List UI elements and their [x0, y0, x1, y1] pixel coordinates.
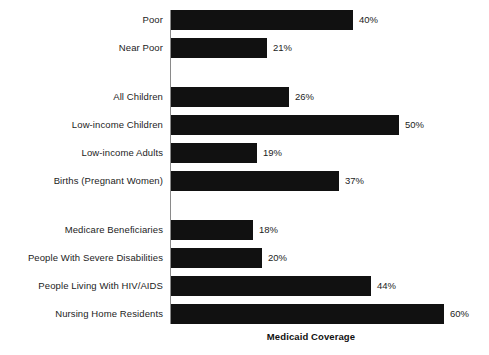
bar-row: People With Severe Disabilities20%	[0, 248, 489, 268]
bar	[171, 115, 399, 135]
bar-row: Poor40%	[0, 10, 489, 30]
bar-value-label: 44%	[377, 276, 396, 296]
bar-row: Low-income Adults19%	[0, 143, 489, 163]
bar-category-label: People Living With HIV/AIDS	[0, 276, 163, 296]
bar	[171, 304, 444, 324]
bar	[171, 276, 371, 296]
bar	[171, 143, 257, 163]
bar	[171, 38, 267, 58]
bar	[171, 220, 253, 240]
plot-area: Poor40%Near Poor21%All Children26%Low-in…	[0, 0, 489, 355]
bar	[171, 87, 289, 107]
bar	[171, 248, 262, 268]
bar-value-label: 37%	[345, 171, 364, 191]
bar-category-label: Births (Pregnant Women)	[0, 171, 163, 191]
bar-category-label: Nursing Home Residents	[0, 304, 163, 324]
bar-category-label: Medicare Beneficiaries	[0, 220, 163, 240]
medicaid-coverage-bar-chart: Poor40%Near Poor21%All Children26%Low-in…	[0, 0, 489, 355]
bar	[171, 171, 339, 191]
bar	[171, 10, 353, 30]
bar-value-label: 20%	[268, 248, 287, 268]
bar-value-label: 40%	[359, 10, 378, 30]
bar-category-label: All Children	[0, 87, 163, 107]
bar-category-label: Near Poor	[0, 38, 163, 58]
bar-row: Medicare Beneficiaries18%	[0, 220, 489, 240]
bar-value-label: 21%	[273, 38, 292, 58]
bar-category-label: Poor	[0, 10, 163, 30]
bar-row: Births (Pregnant Women)37%	[0, 171, 489, 191]
x-axis-title: Medicaid Coverage	[171, 331, 451, 342]
bar-category-label: Low-income Children	[0, 115, 163, 135]
bar-category-label: People With Severe Disabilities	[0, 248, 163, 268]
bar-row: Low-income Children50%	[0, 115, 489, 135]
bar-value-label: 26%	[295, 87, 314, 107]
bar-row: People Living With HIV/AIDS44%	[0, 276, 489, 296]
bar-row: Near Poor21%	[0, 38, 489, 58]
bar-value-label: 18%	[259, 220, 278, 240]
bar-category-label: Low-income Adults	[0, 143, 163, 163]
bar-value-label: 60%	[450, 304, 469, 324]
bar-value-label: 50%	[405, 115, 424, 135]
bar-row: Nursing Home Residents60%	[0, 304, 489, 324]
bar-value-label: 19%	[263, 143, 282, 163]
bar-row: All Children26%	[0, 87, 489, 107]
